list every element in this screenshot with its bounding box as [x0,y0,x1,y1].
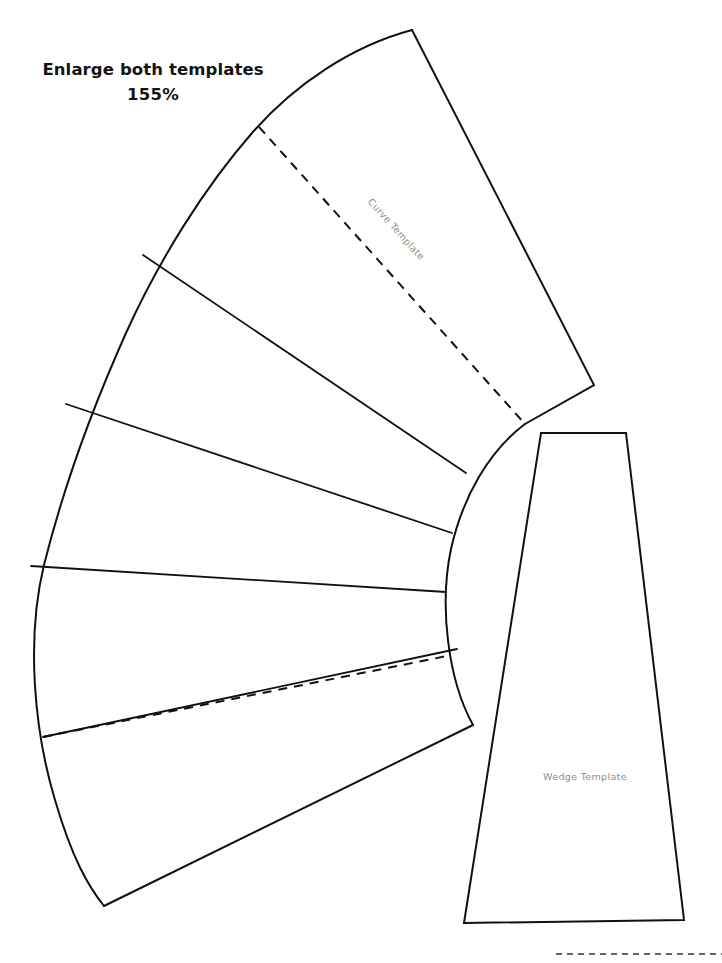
curve-segment-divider-1 [143,255,466,473]
curve-bottom-edge [104,725,473,906]
pattern-drawing [0,0,722,963]
curve-outer-arc [34,30,412,906]
curve-template-shape[interactable] [31,30,594,906]
instruction-line-2: 155% [38,85,268,106]
curve-inner-arc [446,424,525,725]
instruction-block: Enlarge both templates 155% [38,60,268,105]
curve-segment-divider-2 [66,404,452,533]
pattern-page: Enlarge both templates 155% Curve Templa… [0,0,722,963]
wedge-template-label: Wedge Template [543,771,627,782]
instruction-line-1: Enlarge both templates [38,60,268,81]
wedge-template-shape[interactable] [464,433,684,923]
curve-right-edge [412,30,594,424]
curve-segment-divider-3 [31,566,446,592]
curve-segment-divider-4 [43,649,457,737]
wedge-outline [464,433,684,923]
